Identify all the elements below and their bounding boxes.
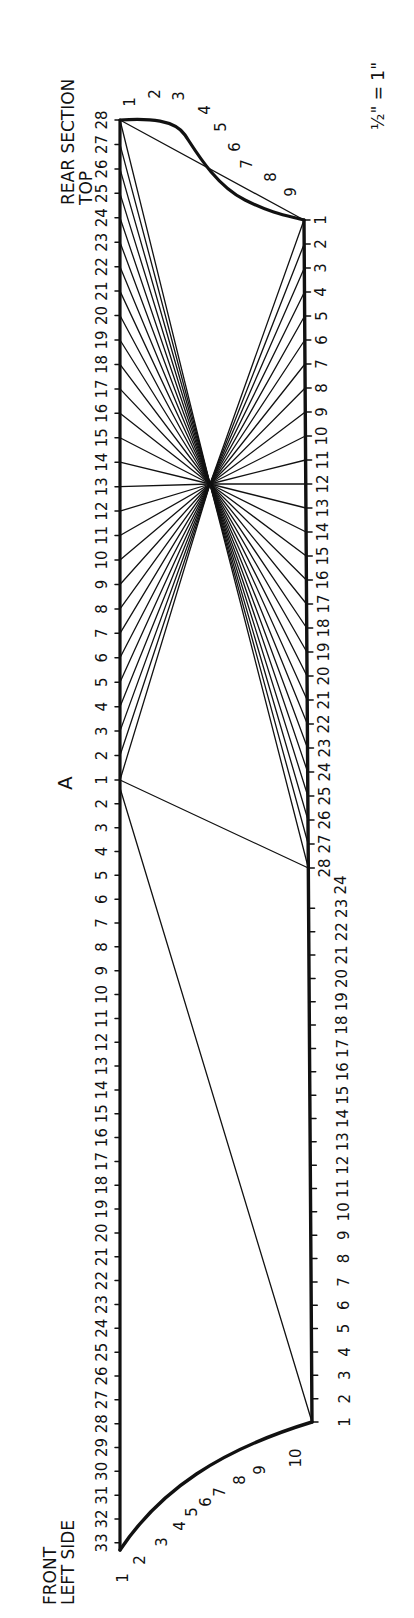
right-lower-label: 23 xyxy=(333,899,351,918)
right-lower-label: 5 xyxy=(335,1324,353,1334)
top-subtitle: REAR SECTION xyxy=(58,79,78,205)
left-lower-label: 17 xyxy=(93,1152,111,1171)
right-upper-label: 23 xyxy=(316,738,334,757)
right-upper-label: 3 xyxy=(312,263,330,273)
left-upper-label: 23 xyxy=(93,233,111,252)
fan-line-left xyxy=(120,484,210,731)
fan-line-left xyxy=(120,267,210,484)
right-lower-label: 20 xyxy=(333,969,351,988)
top-curve-label: 9 xyxy=(282,187,300,197)
right-upper-label: 6 xyxy=(313,335,331,345)
left-lower-label: 29 xyxy=(93,1438,111,1457)
left-lower-label: 12 xyxy=(93,1033,111,1052)
left-lower-label: 18 xyxy=(93,1176,111,1195)
scale-note: ½" = 1" xyxy=(368,62,388,130)
fan-line-right xyxy=(210,292,304,484)
right-upper-label: 16 xyxy=(314,570,332,589)
right-upper-label: 1 xyxy=(312,215,330,225)
left-lower-label: 9 xyxy=(93,966,111,976)
right-upper-label: 11 xyxy=(314,450,332,469)
right-lower-label: 18 xyxy=(333,1016,351,1035)
top-curve-label: 8 xyxy=(262,172,280,182)
right-lower-label: 21 xyxy=(333,945,351,964)
left-lower-label: 13 xyxy=(93,1057,111,1076)
left-lower-label: 8 xyxy=(93,942,111,952)
left-lower-label: 32 xyxy=(93,1509,111,1528)
triangulation-lines xyxy=(120,120,312,1422)
fan-line-right xyxy=(210,316,305,484)
bottom-curve-label: 1 xyxy=(114,1573,132,1583)
left-upper-label: 27 xyxy=(93,135,111,154)
right-upper-label: 24 xyxy=(316,762,334,781)
left-lower-label: 20 xyxy=(93,1223,111,1242)
right-upper-label: 10 xyxy=(313,426,331,445)
right-lower-label: 9 xyxy=(335,1230,353,1240)
top-diagonal xyxy=(120,120,304,220)
left-upper-label: 4 xyxy=(93,702,111,712)
right-lower-label: 15 xyxy=(334,1086,352,1105)
top-title-line2: REAR SECTION xyxy=(58,79,78,205)
right-upper-label: 12 xyxy=(314,474,332,493)
left-lower-label: 4 xyxy=(93,847,111,857)
left-upper-label: 18 xyxy=(93,355,111,374)
right-lower-label: 8 xyxy=(335,1254,353,1264)
fan-line-left xyxy=(120,242,210,484)
fan-line-left xyxy=(120,120,210,484)
left-lower-label: 23 xyxy=(93,1295,111,1314)
left-lower-label: 22 xyxy=(93,1271,111,1290)
fan-line-left xyxy=(120,193,210,484)
left-lower-label: 28 xyxy=(93,1414,111,1433)
right-lower-label: 4 xyxy=(336,1347,354,1357)
fan-line-left xyxy=(120,484,210,756)
fan-line-right xyxy=(210,268,304,484)
left-upper-label: 28 xyxy=(93,110,111,129)
right-upper-label: 27 xyxy=(316,834,334,853)
left-lower-label: 2 xyxy=(93,799,111,809)
bottom-curve-label: 2 xyxy=(131,1555,149,1565)
left-lower-label: 15 xyxy=(93,1104,111,1123)
left-lower-label: 14 xyxy=(93,1080,111,1099)
fan-line-right xyxy=(210,388,305,484)
left-upper-label: 20 xyxy=(93,306,111,325)
top-title-line1: TOP xyxy=(76,171,96,206)
left-upper-label: 7 xyxy=(93,629,111,639)
fan-line-left xyxy=(120,484,210,682)
right-lower-label: 1 xyxy=(336,1417,354,1427)
bottom-curve-label: 7 xyxy=(211,1487,229,1497)
right-upper-label: 8 xyxy=(313,383,331,393)
fan-line-left xyxy=(120,291,210,484)
right-upper-label: 9 xyxy=(313,407,331,417)
fan-line-right xyxy=(210,364,305,484)
bottom-curve-label: 5 xyxy=(183,1507,201,1517)
left-upper-label: 11 xyxy=(93,526,111,545)
fan-line-right xyxy=(210,460,306,484)
fan-line-right xyxy=(210,484,307,604)
right-lower-label: 11 xyxy=(334,1179,352,1198)
right-lower-label: 12 xyxy=(334,1156,352,1175)
left-lower-label: 11 xyxy=(93,1009,111,1028)
right-upper-label: 5 xyxy=(313,311,331,321)
right-lower-label: 16 xyxy=(334,1062,352,1081)
right-upper-label: 28 xyxy=(316,858,334,877)
left-upper-label: 12 xyxy=(93,502,111,521)
right-upper-label: 17 xyxy=(315,594,333,613)
right-upper-label: 22 xyxy=(315,714,333,733)
fan-line-left xyxy=(120,484,210,487)
right-lower-label: 10 xyxy=(335,1202,353,1221)
left-upper-label: 2 xyxy=(93,751,111,761)
right-edge xyxy=(304,220,312,1422)
point-a-marker: A xyxy=(53,776,77,790)
left-upper-label: 19 xyxy=(93,330,111,349)
right-upper-label: 20 xyxy=(315,666,333,685)
right-upper-label: 18 xyxy=(315,618,333,637)
right-upper-label: 4 xyxy=(312,287,330,297)
left-lower-label: 21 xyxy=(93,1247,111,1266)
right-lower-label: 6 xyxy=(335,1300,353,1310)
bottom-curve-label: 6 xyxy=(197,1497,215,1507)
right-lower-label: 7 xyxy=(335,1277,353,1287)
fan-line-right xyxy=(210,484,307,676)
right-upper-label: 25 xyxy=(316,786,334,805)
outline-edges xyxy=(115,119,318,1550)
left-upper-label: 10 xyxy=(93,550,111,569)
bottom-curve-label: 9 xyxy=(251,1465,269,1475)
